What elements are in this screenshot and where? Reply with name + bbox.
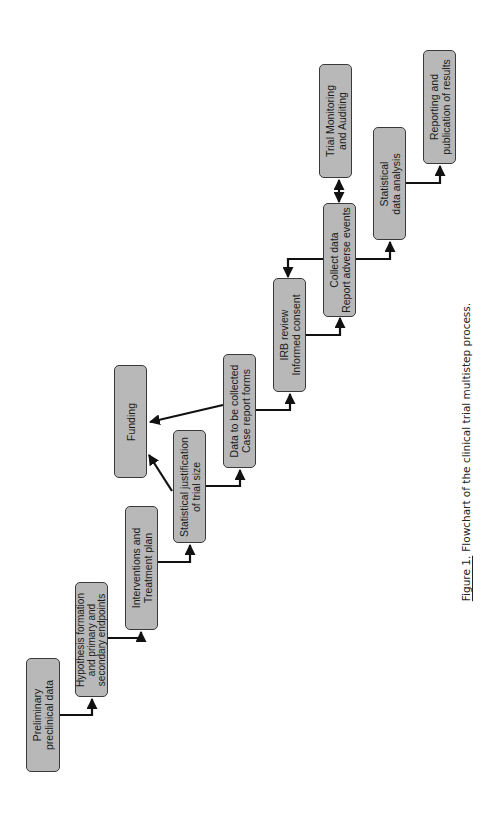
node-collect-data: Collect data Report adverse events — [323, 203, 356, 317]
edge-irb-collect — [306, 318, 340, 335]
node-label: Statistical data analysis — [378, 153, 402, 214]
node-irb-review: IRB review Informed consent — [273, 278, 306, 392]
node-label: Interventions and Treatment plan — [130, 528, 154, 609]
edge-data-funding — [150, 405, 223, 422]
node-trial-monitoring: Trial Monitoring and Auditing — [319, 64, 352, 178]
flowchart-canvas: Preliminary preclinical data Hypothesis … — [0, 0, 497, 817]
edge-collect-statanalysis — [356, 242, 390, 259]
node-reporting: Reporting and publication of results — [423, 50, 456, 164]
edge-data-irb — [256, 394, 290, 410]
edge-statjust-funding — [149, 455, 172, 491]
caption-text: Flowchart of the clinical trial multiste… — [460, 303, 472, 552]
node-label: Hypothesis formation and primary and sec… — [76, 593, 108, 687]
node-hypothesis: Hypothesis formation and primary and sec… — [75, 582, 108, 697]
edge-interventions-statjust — [158, 545, 190, 562]
edge-hypothesis-interventions — [108, 632, 141, 638]
node-statistical-justification: Statistical justification of trial size — [173, 430, 206, 543]
node-label: Collect data Report adverse events — [328, 207, 352, 313]
edge-preliminary-hypothesis — [60, 699, 92, 715]
node-label: Preliminary preclinical data — [31, 680, 55, 750]
node-funding: Funding — [114, 365, 147, 478]
node-interventions: Interventions and Treatment plan — [125, 506, 158, 630]
node-label: Statistical justification of trial size — [178, 437, 202, 537]
edge-statjust-data — [206, 470, 240, 486]
edge-collect-irb — [288, 259, 323, 277]
node-label: Trial Monitoring and Auditing — [324, 85, 348, 157]
node-statistical-data-analysis: Statistical data analysis — [373, 127, 406, 240]
node-label: IRB review Informed consent — [278, 294, 302, 375]
node-label: Funding — [125, 403, 137, 441]
node-label: Reporting and publication of results — [428, 59, 452, 155]
node-label: Data to be collected Case report forms — [228, 365, 252, 458]
node-data-to-be-collected: Data to be collected Case report forms — [223, 354, 256, 468]
figure-number: Figure 1. — [460, 556, 472, 601]
figure-caption: Figure 1.Flowchart of the clinical trial… — [460, 303, 472, 601]
edge-statanalysis-reporting — [406, 166, 440, 183]
node-preliminary: Preliminary preclinical data — [26, 658, 60, 772]
